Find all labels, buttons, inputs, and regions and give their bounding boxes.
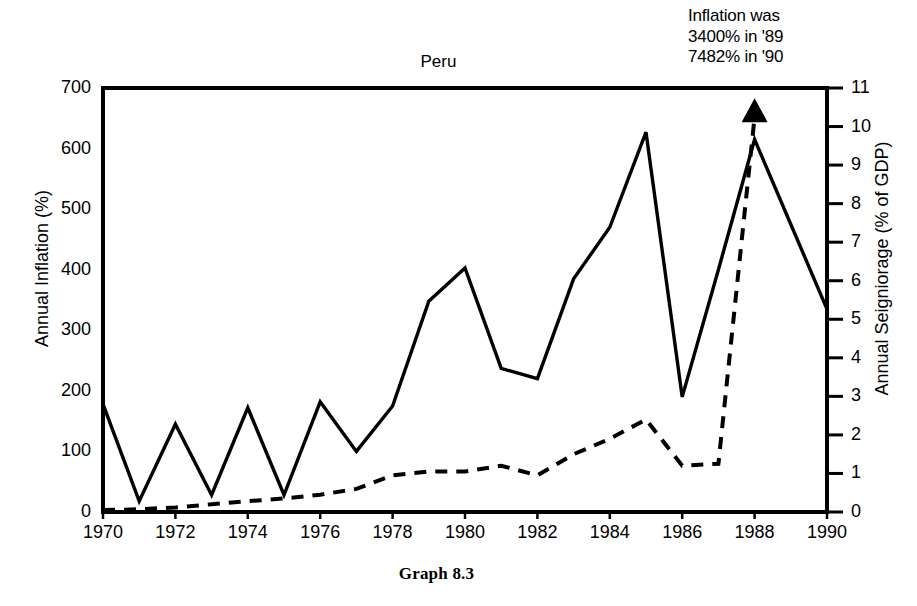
x-tick-1974: 1974 [213, 522, 283, 543]
y-tick-right-0: 0 [851, 501, 891, 522]
y-tick-left-600: 600 [0, 138, 91, 159]
y-tick-left-400: 400 [0, 259, 91, 280]
y-tick-right-4: 4 [851, 347, 891, 368]
right-axis-ticks [827, 88, 843, 512]
y-tick-right-9: 9 [851, 154, 891, 175]
x-tick-1990: 1990 [792, 522, 862, 543]
y-tick-right-6: 6 [851, 270, 891, 291]
y-tick-right-5: 5 [851, 308, 891, 329]
x-tick-1980: 1980 [430, 522, 500, 543]
y-tick-right-11: 11 [851, 77, 891, 98]
x-tick-1982: 1982 [502, 522, 572, 543]
x-tick-1988: 1988 [720, 522, 790, 543]
y-tick-right-10: 10 [851, 116, 891, 137]
x-tick-1984: 1984 [575, 522, 645, 543]
off-scale-arrow-icon [742, 98, 768, 122]
y-tick-left-300: 300 [0, 319, 91, 340]
y-tick-left-700: 700 [0, 77, 91, 98]
y-tick-left-200: 200 [0, 380, 91, 401]
y-tick-right-3: 3 [851, 385, 891, 406]
y-tick-right-2: 2 [851, 424, 891, 445]
y-tick-left-500: 500 [0, 198, 91, 219]
y-tick-left-0: 0 [0, 501, 91, 522]
y-tick-left-100: 100 [0, 440, 91, 461]
x-tick-1986: 1986 [647, 522, 717, 543]
x-tick-1978: 1978 [358, 522, 428, 543]
chart-canvas: Inflation was 3400% in '89 7482% in '90 … [0, 0, 917, 606]
series-annual-seigniorage [103, 117, 755, 510]
x-tick-1970: 1970 [68, 522, 138, 543]
y-tick-right-7: 7 [851, 231, 891, 252]
y-tick-right-8: 8 [851, 193, 891, 214]
y-tick-right-1: 1 [851, 462, 891, 483]
plot-area [0, 0, 917, 606]
x-tick-1976: 1976 [285, 522, 355, 543]
x-tick-1972: 1972 [140, 522, 210, 543]
